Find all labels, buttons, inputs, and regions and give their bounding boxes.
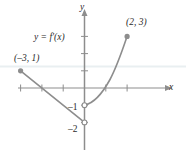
plot-canvas xyxy=(0,0,186,162)
y-tick-label--1: –1 xyxy=(68,103,78,113)
y-axis-label: y xyxy=(80,3,84,13)
y-tick-label--2: –2 xyxy=(68,125,78,135)
endpoint-filled-right xyxy=(125,34,130,39)
endpoint-filled-left xyxy=(18,68,23,73)
curve-linear-branch xyxy=(21,71,85,123)
point-label-right: (2, 3) xyxy=(126,18,147,28)
x-axis-label: x xyxy=(169,83,173,93)
graph-figure: y = f′(x) (–3, 1) (2, 3) x y –1 –2 xyxy=(0,0,186,162)
endpoint-open-lower xyxy=(82,120,87,125)
point-label-left: (–3, 1) xyxy=(14,54,39,64)
function-label: y = f′(x) xyxy=(34,33,65,43)
curve-parabolic-branch xyxy=(85,36,128,105)
endpoint-open-upper xyxy=(82,103,87,108)
